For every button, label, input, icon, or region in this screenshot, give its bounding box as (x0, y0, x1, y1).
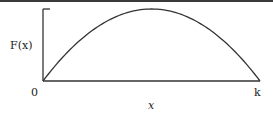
x-axis-label: x (148, 99, 155, 112)
x-tick-label-0: 0 (31, 86, 38, 99)
x-tick-label-k: k (254, 86, 261, 99)
chart: F(x) 0 k x (0, 0, 273, 117)
y-axis-label: F(x) (10, 39, 32, 52)
series-line-fx (43, 9, 260, 81)
